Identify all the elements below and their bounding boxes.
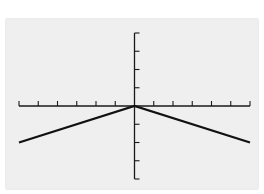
graph-plot [0,0,264,194]
